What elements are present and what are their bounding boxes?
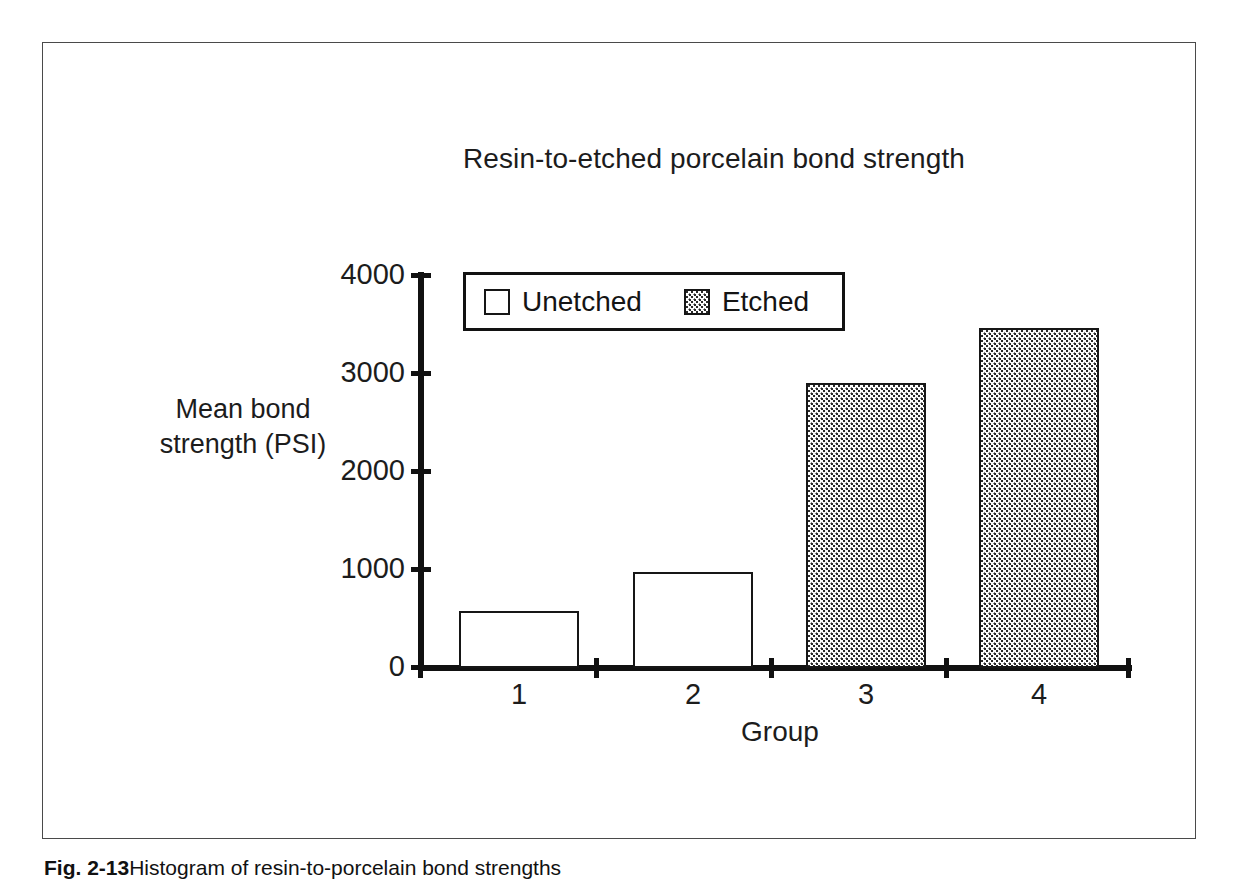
x-tick-2 bbox=[769, 658, 774, 678]
legend-entry-unetched: Unetched bbox=[484, 288, 642, 316]
chart-legend: Unetched Etched bbox=[463, 272, 845, 331]
x-tick-label-4: 4 bbox=[999, 680, 1079, 709]
x-tick-1 bbox=[594, 658, 599, 678]
y-tick-3000 bbox=[411, 371, 431, 376]
y-tick-1000 bbox=[411, 567, 431, 572]
x-axis-title: Group bbox=[700, 716, 860, 748]
legend-entries: Unetched Etched bbox=[466, 275, 842, 328]
figure-caption-label: Fig. 2-13 bbox=[44, 856, 129, 879]
legend-entry-etched: Etched bbox=[684, 288, 809, 316]
bar-group-3 bbox=[806, 383, 926, 668]
bar-group-1 bbox=[459, 611, 579, 668]
y-tick-label-4000: 4000 bbox=[285, 260, 405, 289]
figure-caption-text: Histogram of resin-to-porcelain bond str… bbox=[129, 856, 561, 879]
x-tick-label-2: 2 bbox=[653, 680, 733, 709]
legend-swatch-unetched-icon bbox=[484, 289, 510, 315]
x-tick-3 bbox=[944, 658, 949, 678]
legend-label-etched: Etched bbox=[722, 288, 809, 316]
y-tick-label-0: 0 bbox=[285, 652, 405, 681]
y-tick-4000 bbox=[411, 273, 431, 278]
y-axis-title: Mean bond strength (PSI) bbox=[118, 392, 368, 461]
x-tick-origin bbox=[418, 658, 423, 678]
y-tick-label-1000: 1000 bbox=[285, 554, 405, 583]
bar-group-2 bbox=[633, 572, 753, 668]
x-tick-label-1: 1 bbox=[479, 680, 559, 709]
y-tick-label-3000: 3000 bbox=[285, 358, 405, 387]
bar-group-4 bbox=[979, 328, 1099, 668]
legend-swatch-etched-icon bbox=[684, 289, 710, 315]
y-axis-title-line2: strength (PSI) bbox=[118, 427, 368, 462]
x-tick-end bbox=[1126, 658, 1131, 678]
figure-caption: Fig. 2-13Histogram of resin-to-porcelain… bbox=[44, 856, 1194, 880]
x-tick-label-3: 3 bbox=[826, 680, 906, 709]
y-axis-title-line1: Mean bond bbox=[118, 392, 368, 427]
legend-label-unetched: Unetched bbox=[522, 288, 642, 316]
y-tick-2000 bbox=[411, 469, 431, 474]
